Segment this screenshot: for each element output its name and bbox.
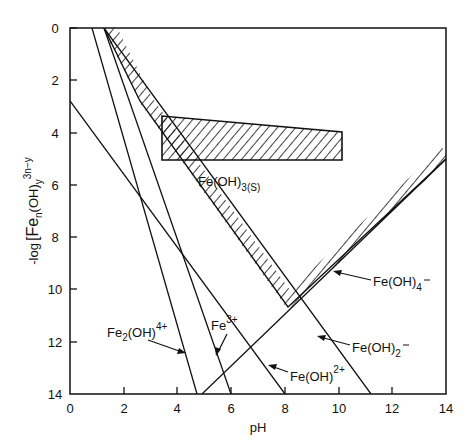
solid-region-feoh3 (162, 116, 342, 160)
svg-text:12: 12 (385, 401, 399, 416)
svg-text:2: 2 (120, 401, 127, 416)
svg-text:12: 12 (48, 335, 62, 350)
x-tick-labels: 0 2 4 6 8 10 12 14 (66, 401, 453, 416)
svg-text:14: 14 (48, 387, 62, 402)
svg-text:4: 4 (173, 401, 180, 416)
solubility-boundary-hatched (104, 28, 446, 307)
svg-text:0: 0 (66, 401, 73, 416)
svg-text:6: 6 (51, 178, 58, 193)
x-axis-ticks (124, 387, 392, 394)
svg-text:4: 4 (51, 126, 58, 141)
svg-text:Fe2(OH)4+: Fe2(OH)4+ (107, 321, 167, 343)
annotation-fe2oh4: Fe2(OH)4+ (107, 321, 186, 354)
annotation-feoh4: Fe(OH)4 (333, 270, 430, 293)
annotation-feoh2plus: Fe(OH)2+ (268, 364, 345, 384)
svg-text:Fe(OH)4: Fe(OH)4 (373, 274, 422, 293)
svg-text:14: 14 (439, 401, 453, 416)
svg-text:6: 6 (227, 401, 234, 416)
y-tick-labels: 0 2 4 6 8 10 12 14 (48, 21, 62, 402)
y-axis-ticks (70, 28, 77, 342)
svg-text:10: 10 (48, 282, 62, 297)
speciation-chart: 0 2 4 6 8 10 12 14 0 2 4 6 8 10 12 14 pH… (0, 0, 467, 446)
svg-text:8: 8 (51, 230, 58, 245)
svg-text:Fe(OH)2+: Fe(OH)2+ (290, 364, 345, 384)
svg-text:2: 2 (51, 73, 58, 88)
svg-text:Fe(OH)2: Fe(OH)2 (352, 340, 401, 359)
y-axis-label: -log[Fen(OH)y3n−y (22, 157, 44, 265)
svg-text:0: 0 (51, 21, 58, 36)
x-axis-label: pH (250, 420, 267, 435)
svg-text:8: 8 (281, 401, 288, 416)
svg-text:Fe3+: Fe3+ (211, 314, 238, 333)
svg-text:10: 10 (332, 401, 346, 416)
